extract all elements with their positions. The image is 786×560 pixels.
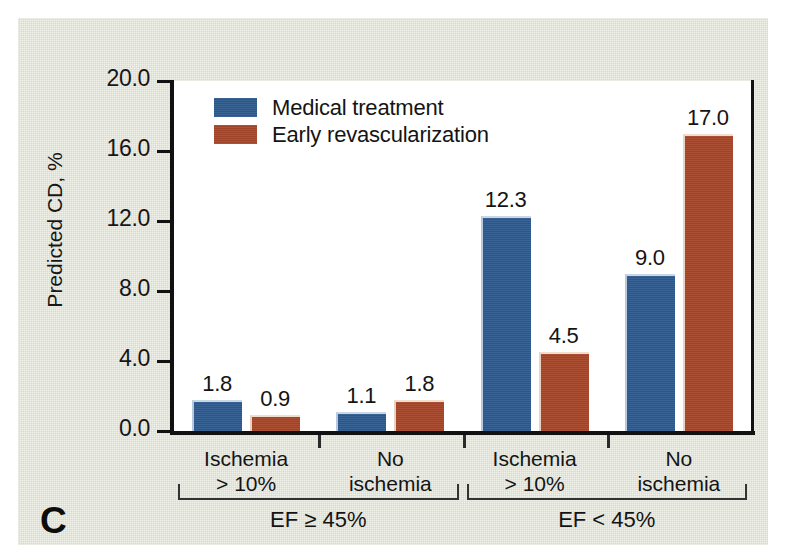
group-label: EF < 45% <box>467 507 748 533</box>
y-axis-tick <box>157 360 171 363</box>
y-axis-tick <box>157 150 171 153</box>
y-axis-tick <box>157 80 171 83</box>
plot-right-border <box>751 80 754 435</box>
bar-medical <box>625 274 675 432</box>
bar-value-label: 0.9 <box>232 386 318 412</box>
bar-value-label: 4.5 <box>521 323 607 349</box>
chart-figure: 0.04.08.012.016.020.0 Predicted CD, % Me… <box>0 0 786 560</box>
bar-value-label: 12.3 <box>463 187 549 213</box>
x-axis-label-line: Ischemia <box>166 446 326 471</box>
bar-medical <box>336 412 386 431</box>
x-axis-label-line: Ischemia <box>455 446 615 471</box>
x-axis-label-line: No <box>599 446 759 471</box>
group-label: EF ≥ 45% <box>178 507 459 533</box>
legend-label-medical: Medical treatment <box>272 95 443 121</box>
y-axis-tick <box>157 220 171 223</box>
legend-swatch-revascularization-icon <box>214 125 257 144</box>
bar-revascularization <box>683 134 733 432</box>
legend-swatch-medical-icon <box>214 98 257 117</box>
legend-label-revascularization: Early revascularization <box>272 122 489 148</box>
bar-value-label: 9.0 <box>607 245 693 271</box>
y-axis-tick-label: 4.0 <box>50 345 150 372</box>
figure-panel: 0.04.08.012.016.020.0 Predicted CD, % Me… <box>18 18 768 545</box>
y-axis-title: Predicted CD, % <box>43 120 67 340</box>
chart-legend: Medical treatment Early revascularizatio… <box>214 94 489 148</box>
group-bracket <box>178 484 459 500</box>
panel-letter: C <box>40 500 67 542</box>
bar-value-label: 1.8 <box>376 371 462 397</box>
bar-revascularization <box>394 400 444 432</box>
bar-value-label: 17.0 <box>665 105 751 131</box>
y-axis-tick-label: 20.0 <box>50 65 150 92</box>
bar-revascularization <box>539 352 589 431</box>
group-bracket <box>467 484 748 500</box>
legend-item-revascularization: Early revascularization <box>214 121 489 148</box>
bar-revascularization <box>250 415 300 431</box>
y-axis-tick-label: 0.0 <box>50 415 150 442</box>
x-axis-label-line: No <box>310 446 470 471</box>
legend-item-medical: Medical treatment <box>214 94 489 121</box>
y-axis-tick <box>157 430 171 433</box>
y-axis-tick <box>157 290 171 293</box>
